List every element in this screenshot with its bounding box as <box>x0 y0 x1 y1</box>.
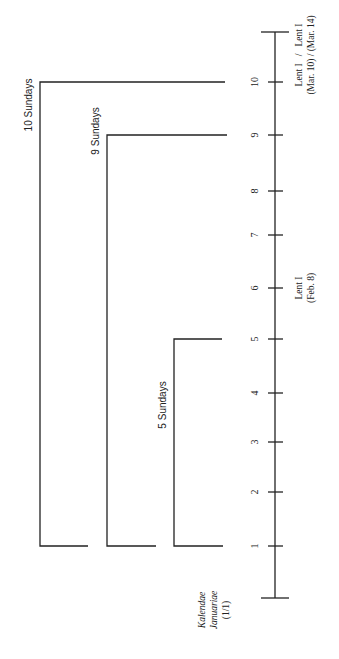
svg-text:Lent I: Lent I <box>294 277 304 300</box>
timeline-axis <box>261 32 289 598</box>
tick-label-7: 7 <box>249 233 260 238</box>
tick-label-9: 9 <box>249 133 260 138</box>
svg-text:Lent I / Lent I: Lent I / Lent I <box>294 24 304 87</box>
tick-label-5: 5 <box>249 337 260 342</box>
bracket-10-sundays: 10 Sundays <box>23 79 225 546</box>
tick-label-6: 6 <box>249 286 260 291</box>
tick-label-3: 3 <box>249 440 260 445</box>
tick-labels: 1 2 3 4 5 6 7 8 9 10 <box>249 77 260 549</box>
kalendae-label: Kalendae Januariae (1/1) <box>197 591 232 630</box>
tick-label-4: 4 <box>249 391 260 396</box>
svg-text:5 Sundays: 5 Sundays <box>157 381 168 428</box>
svg-text:Januariae: Januariae <box>209 591 219 630</box>
lent-feb-annotation: Lent I (Feb. 8) <box>294 273 317 303</box>
svg-text:(1/1): (1/1) <box>221 601 232 619</box>
tick-label-2: 2 <box>249 490 260 495</box>
svg-text:(Feb. 8): (Feb. 8) <box>306 273 317 303</box>
tick-label-1: 1 <box>249 544 260 549</box>
tick-label-8: 8 <box>249 189 260 194</box>
sunday-count-diagram: 1 2 3 4 5 6 7 8 9 10 10 Sundays 9 Sunday… <box>0 0 339 659</box>
tick-label-10: 10 <box>249 77 260 87</box>
bracket-5-sundays: 5 Sundays <box>157 339 223 546</box>
lent-mar-annotation: Lent I / Lent I (Mar. 10) / (Mar. 14) <box>294 15 317 94</box>
svg-text:9 Sundays: 9 Sundays <box>90 107 101 154</box>
svg-text:10 Sundays: 10 Sundays <box>23 79 34 132</box>
bracket-9-sundays: 9 Sundays <box>90 107 227 546</box>
svg-text:(Mar. 10) / (Mar. 14): (Mar. 10) / (Mar. 14) <box>306 15 317 94</box>
svg-text:Kalendae: Kalendae <box>197 592 207 629</box>
